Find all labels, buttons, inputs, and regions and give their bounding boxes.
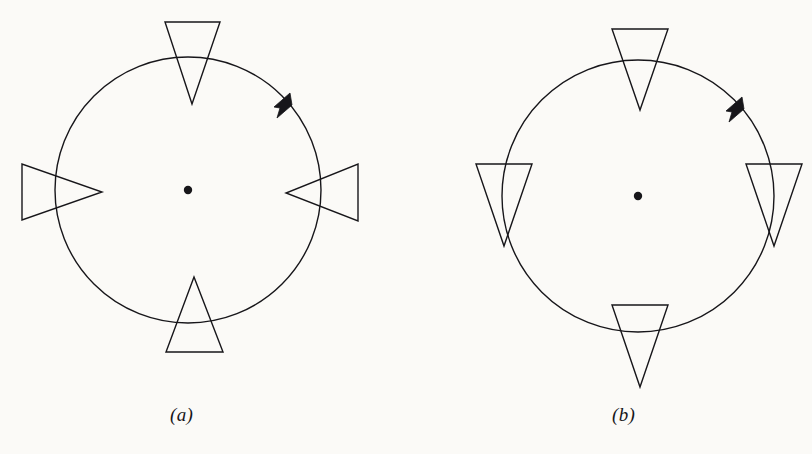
panel-b [476, 29, 802, 387]
panel-b-caption: (b) [612, 404, 635, 426]
panel-a-triangle-south [166, 277, 223, 352]
panel-a-caption: (a) [170, 404, 193, 426]
figure-canvas [0, 0, 812, 454]
panel-b-center-dot [634, 192, 642, 200]
panel-b-triangle-south [612, 305, 668, 387]
panel-a-triangle-north [165, 22, 220, 104]
panel-b-triangle-north [612, 29, 668, 110]
panel-a [22, 22, 358, 352]
figure-sheet: (a) (b) [0, 0, 812, 454]
panel-a-center-dot [184, 186, 192, 194]
panel-a-triangle-west [22, 164, 102, 220]
panel-a-triangle-east [286, 164, 358, 221]
